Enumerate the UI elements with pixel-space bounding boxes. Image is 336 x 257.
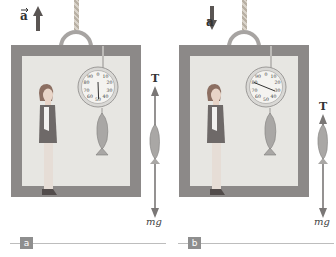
svg-text:70: 70 — [252, 88, 258, 93]
tension-label: T — [319, 100, 327, 113]
suspension-rope — [74, 0, 79, 30]
svg-text:60: 60 — [255, 94, 261, 99]
svg-text:0: 0 — [265, 72, 268, 77]
suspension-rope — [242, 0, 247, 30]
caption-badge-b: b — [188, 237, 201, 249]
free-body-diagram — [312, 112, 334, 224]
elevator-car — [11, 45, 141, 197]
caption-rule — [10, 243, 166, 244]
svg-text:50: 50 — [95, 97, 101, 102]
svg-text:40: 40 — [103, 94, 109, 99]
caption-rule — [178, 243, 334, 244]
svg-text:70: 70 — [84, 88, 90, 93]
svg-text:30: 30 — [107, 88, 113, 93]
spring-scale-dial: 01020 304050 60708090 — [77, 66, 119, 108]
svg-text:40: 40 — [271, 94, 277, 99]
acceleration-label: a — [206, 15, 214, 29]
fish-on-scale — [90, 108, 114, 158]
weight-label: mg — [146, 216, 162, 227]
caption-badge-a: a — [20, 237, 33, 249]
fish-on-scale — [258, 108, 282, 158]
woman-figure — [33, 83, 63, 203]
spring-scale-dial: 01020 304050 60708090 — [245, 66, 287, 108]
svg-text:30: 30 — [275, 88, 281, 93]
svg-text:20: 20 — [275, 80, 281, 85]
elevator-car — [179, 45, 309, 197]
panel-a: a 01020 304050 60708090 — [0, 0, 168, 257]
panel-b: a 01020 304050 60708090 — [168, 0, 336, 257]
svg-text:80: 80 — [84, 80, 90, 85]
svg-text:90: 90 — [255, 74, 261, 79]
accel-vector-hat-icon — [20, 6, 30, 12]
svg-text:90: 90 — [87, 74, 93, 79]
woman-figure — [201, 83, 231, 203]
tension-label: T — [151, 72, 159, 85]
svg-text:60: 60 — [87, 94, 93, 99]
free-body-diagram — [144, 84, 166, 224]
svg-text:10: 10 — [103, 74, 109, 79]
svg-text:20: 20 — [107, 80, 113, 85]
svg-text:50: 50 — [263, 97, 269, 102]
svg-text:0: 0 — [97, 72, 100, 77]
svg-text:10: 10 — [271, 74, 277, 79]
weight-label: mg — [314, 216, 330, 227]
